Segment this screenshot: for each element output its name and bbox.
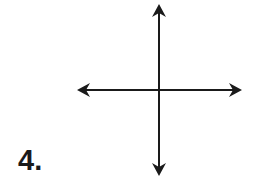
problem-number: 4. — [18, 146, 42, 175]
